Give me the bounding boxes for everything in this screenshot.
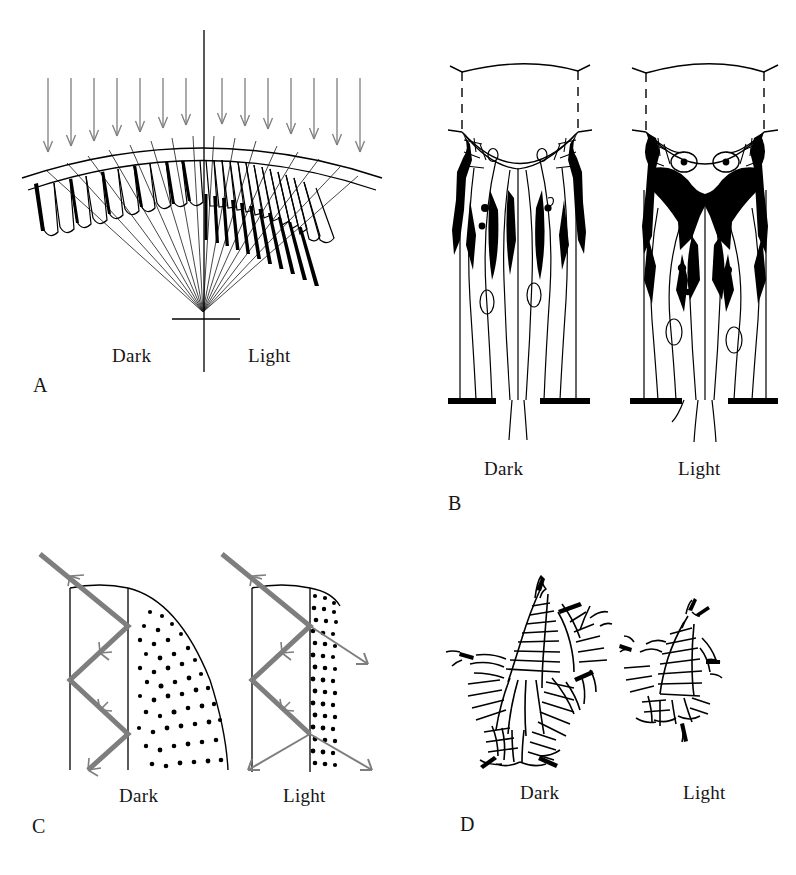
panel-c-rhabdom-dark: [40, 554, 228, 776]
panel-b-caption-light: Light: [678, 458, 721, 480]
panel-a-incident-arrows-dark: [44, 78, 191, 152]
panel-d-letter: D: [460, 813, 474, 836]
panel-b-ommatidium-dark: [448, 64, 592, 440]
panel-c-letter: C: [32, 815, 45, 838]
panel-a-incident-arrows-light: [218, 78, 365, 152]
panel-d-rhabdom-light: [619, 598, 722, 742]
panel-d-rhabdom-dark: [446, 576, 612, 769]
panel-b-ommatidium-light: [630, 64, 778, 442]
panel-c-ray-light: [222, 554, 310, 734]
panel-c-pigment-granules-light: [311, 594, 338, 767]
panel-a-converging-rays: [47, 136, 358, 312]
panel-c-drawing: [0, 530, 440, 820]
panel-c-rhabdom-light: [222, 554, 372, 772]
panel-a-caption-light: Light: [248, 345, 291, 367]
panel-a: Dark Light A: [0, 0, 420, 420]
panel-c-pigment-granules-dark: [137, 610, 223, 768]
panel-d-caption-dark: Dark: [520, 782, 559, 804]
panel-b-letter: B: [448, 492, 461, 515]
panel-b: Dark Light B: [430, 40, 796, 520]
panel-a-light-cones: [205, 160, 335, 286]
panel-b-drawing: [430, 40, 796, 510]
panel-c-caption-dark: Dark: [119, 785, 158, 807]
panel-d: Dark Light D: [440, 560, 796, 875]
panel-d-caption-light: Light: [683, 782, 726, 804]
panel-a-caption-dark: Dark: [112, 345, 151, 367]
panel-c-caption-light: Light: [283, 785, 326, 807]
panel-a-letter: A: [33, 374, 47, 397]
panel-b-caption-dark: Dark: [484, 458, 523, 480]
panel-c: Dark Light C: [0, 530, 440, 875]
panel-a-drawing: [0, 0, 420, 420]
panel-d-drawing: [440, 560, 796, 820]
